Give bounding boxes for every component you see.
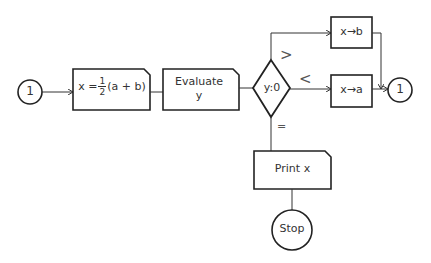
start-connector-label: 1 (24, 84, 36, 98)
stop-label: Stop (272, 222, 312, 235)
decision-label: y:0 (256, 81, 288, 94)
evaluate-y-label: Evaluate y (163, 75, 235, 103)
greater-edge-label: > (280, 46, 293, 64)
print-x-label: Print x (254, 162, 331, 175)
compute-x-prefix: x = (78, 80, 97, 93)
flowchart-canvas (0, 0, 431, 263)
fraction-denominator: 2 (99, 87, 105, 97)
equal-edge-label: = (277, 120, 286, 133)
end-connector-label: 1 (394, 82, 406, 96)
assign-a-label: x→a (331, 83, 372, 96)
evaluate-line1: Evaluate (163, 75, 235, 89)
less-edge-label: < (299, 70, 312, 88)
fraction-numerator: 1 (98, 76, 106, 87)
edge-assign-b-to-end (372, 33, 381, 89)
evaluate-line2: y (163, 89, 235, 103)
compute-x-label: x = 1 2 (a + b) (74, 76, 150, 97)
compute-x-suffix: (a + b) (107, 80, 146, 93)
assign-b-label: x→b (331, 25, 372, 38)
fraction: 1 2 (98, 76, 106, 97)
